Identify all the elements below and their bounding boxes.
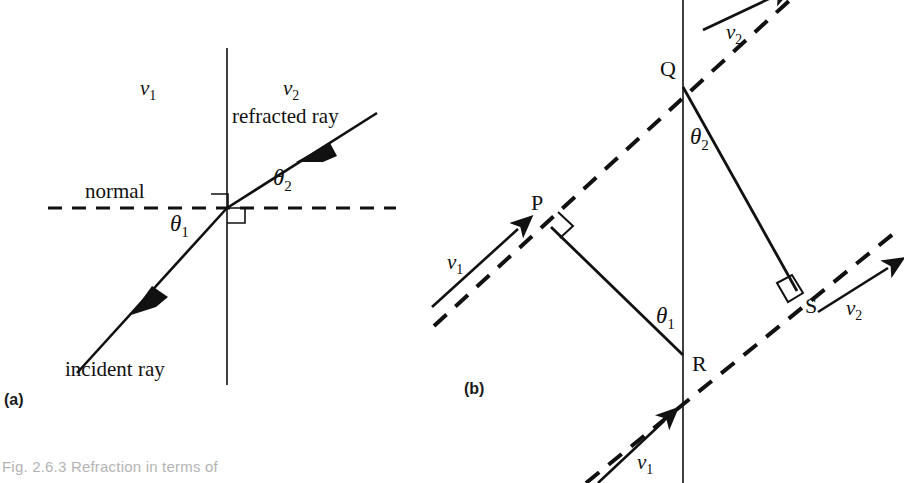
label-v2-upper-b: v2 <box>726 22 742 47</box>
panel-tag-a: (a) <box>4 391 24 409</box>
label-point-s: S <box>805 295 817 317</box>
refraction-figure: v1 v2 refracted ray normal θ1 θ2 inciden… <box>0 0 904 483</box>
label-v2-a: v2 <box>283 78 299 103</box>
label-normal: normal <box>85 181 144 202</box>
label-refracted-ray: refracted ray <box>232 106 339 127</box>
right-angle-marker-lower-right <box>227 208 245 223</box>
label-theta2-b: θ2 <box>690 125 709 152</box>
figure-drawing <box>0 0 904 483</box>
panel-tag-b: (b) <box>464 380 484 398</box>
wavefront-rs-dashed <box>586 230 898 483</box>
v1-arrow-lower <box>598 421 664 483</box>
label-v1-upper-b: v1 <box>447 252 463 277</box>
label-theta2-a: θ2 <box>273 166 292 193</box>
label-theta1-a: θ1 <box>170 212 189 239</box>
label-v2-lower-b: v2 <box>846 298 862 323</box>
refracted-ray-arrowhead <box>296 143 337 162</box>
label-v1-a: v1 <box>140 78 156 103</box>
label-incident-ray: incident ray <box>65 359 165 380</box>
label-point-r: R <box>692 353 707 375</box>
wavefront-pq-dashed <box>434 0 790 326</box>
panel-a-drawing <box>48 48 396 385</box>
incident-ray-arrowhead <box>131 286 168 315</box>
v1-arrow-upper <box>432 229 518 307</box>
ray-q-to-s <box>683 87 797 291</box>
label-theta1-b: θ1 <box>656 304 675 331</box>
label-v1-lower-b: v1 <box>637 452 653 477</box>
label-point-p: P <box>531 192 543 214</box>
ray-p-to-r <box>551 227 683 355</box>
label-point-q: Q <box>660 58 676 80</box>
figure-caption: Fig. 2.6.3 Refraction in terms of <box>2 458 218 475</box>
